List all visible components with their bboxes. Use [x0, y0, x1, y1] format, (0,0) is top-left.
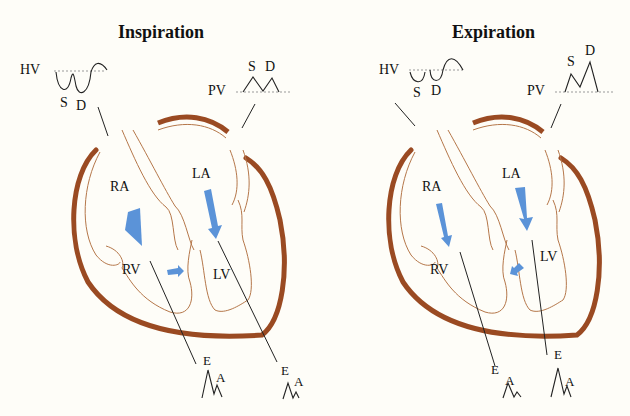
mitral-pointer: [218, 241, 277, 362]
la-lv-flow-arrow: [515, 187, 533, 231]
lv-label: LV: [213, 268, 230, 282]
hv-pointer: [98, 107, 108, 136]
pv-pointer: [551, 104, 561, 128]
pv-d-label: D: [265, 60, 275, 74]
hv-s-label: S: [413, 86, 421, 100]
ra-label: RA: [110, 180, 129, 194]
mitral-a-label: A: [294, 375, 303, 388]
pv-d-label: D: [585, 44, 595, 58]
pv-waveform: [243, 77, 279, 92]
hv-d-label: D: [431, 84, 441, 98]
septal-shift-arrow: [167, 265, 184, 277]
hv-label: HV: [20, 63, 40, 77]
ra-rv-flow-arrow: [436, 203, 452, 247]
septal-shift-arrow: [510, 263, 524, 276]
pv-label: PV: [527, 84, 545, 98]
la-label: LA: [192, 167, 211, 181]
pv-pointer: [242, 104, 255, 128]
tricuspid-a-label: A: [216, 371, 225, 384]
hv-d-label: D: [76, 99, 86, 113]
heart-outer-wall: [74, 150, 285, 336]
ra-label: RA: [422, 180, 441, 194]
tricuspid-e-label: E: [203, 354, 211, 367]
rv-label: RV: [122, 263, 140, 277]
ra-rv-flow-arrow: [125, 208, 142, 246]
la-label: LA: [502, 167, 521, 181]
tricuspid-pointer: [460, 252, 495, 366]
rv-label: RV: [430, 263, 448, 277]
pv-label: PV: [208, 84, 226, 98]
heart-diagram: [315, 0, 630, 416]
tricuspid-a-label: A: [505, 374, 514, 387]
pv-s-label: S: [567, 55, 575, 69]
expiration-panel: Expiration HV S D PV S: [315, 0, 630, 416]
hv-pointer: [395, 103, 415, 126]
pv-s-label: S: [248, 60, 256, 74]
tricuspid-pointer: [150, 261, 196, 364]
tricuspid-e-label: E: [491, 363, 499, 376]
mitral-a-label: A: [565, 375, 574, 388]
la-lv-flow-arrow: [204, 189, 222, 239]
lv-label: LV: [540, 250, 557, 264]
hv-waveform: [56, 63, 107, 92]
hv-label: HV: [379, 63, 399, 77]
heart-outer-wall: [389, 150, 600, 336]
mitral-e-label: E: [281, 364, 289, 377]
hv-s-label: S: [60, 96, 68, 110]
inspiration-panel: Inspiration HV S D PV S: [0, 0, 315, 416]
mitral-e-label: E: [554, 348, 562, 361]
